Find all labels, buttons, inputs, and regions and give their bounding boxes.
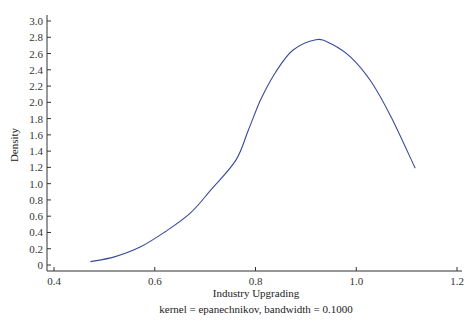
- x-axis-title: Industry Upgrading: [213, 287, 300, 299]
- y-tick-label: 0.6: [29, 210, 43, 222]
- density-curve: [90, 39, 415, 261]
- y-tick-label: 1.6: [29, 129, 43, 141]
- y-tick-label: 2.8: [29, 31, 43, 43]
- y-axis: 00.20.40.60.81.01.21.41.61.82.02.22.42.6…: [29, 15, 51, 271]
- y-tick-label: 1.0: [29, 178, 43, 190]
- x-tick-label: 0.6: [148, 275, 162, 287]
- y-tick-label: 2.4: [29, 64, 43, 76]
- x-tick-label: 1.0: [349, 275, 363, 287]
- x-axis: 0.40.60.81.01.2: [47, 267, 464, 287]
- y-tick-label: 2.0: [29, 96, 43, 108]
- kernel-density-chart: 00.20.40.60.81.01.21.41.61.82.02.22.42.6…: [0, 0, 474, 327]
- kernel-note: kernel = epanechnikov, bandwidth = 0.100…: [159, 303, 353, 315]
- x-tick-label: 0.4: [47, 275, 61, 287]
- y-tick-label: 2.6: [29, 48, 43, 60]
- y-tick-label: 1.8: [29, 113, 43, 125]
- y-tick-label: 0.4: [29, 226, 43, 238]
- y-tick-label: 3.0: [29, 15, 43, 27]
- y-tick-label: 1.2: [29, 161, 43, 173]
- y-tick-label: 0: [38, 259, 44, 271]
- y-tick-label: 1.4: [29, 145, 43, 157]
- y-tick-label: 0.2: [29, 243, 43, 255]
- x-tick-label: 0.8: [249, 275, 263, 287]
- y-tick-label: 0.8: [29, 194, 43, 206]
- y-tick-label: 2.2: [29, 80, 43, 92]
- y-axis-title: Density: [8, 127, 20, 162]
- x-tick-label: 1.2: [450, 275, 464, 287]
